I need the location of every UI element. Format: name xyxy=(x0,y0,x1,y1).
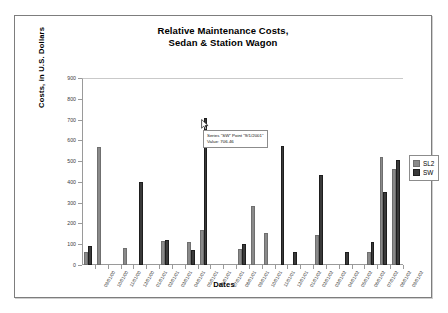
x-tick xyxy=(95,265,96,269)
bar-sw[interactable] xyxy=(139,182,143,265)
legend-item-sl2: SL2 xyxy=(413,159,434,168)
y-tick xyxy=(78,203,82,204)
bar-sw[interactable] xyxy=(191,250,195,265)
y-tick-label: 0 xyxy=(73,262,76,268)
legend-swatch-sw-icon xyxy=(413,169,420,176)
bar-sw[interactable] xyxy=(165,240,169,265)
plot-frame xyxy=(82,78,403,265)
legend-item-sw: SW xyxy=(413,168,434,177)
x-tick xyxy=(236,265,237,269)
bar-sw[interactable] xyxy=(371,242,375,265)
bar-sw[interactable] xyxy=(88,246,92,265)
x-tick xyxy=(198,265,199,269)
tooltip-value-line: Value: 706.46 xyxy=(207,139,264,145)
x-tick xyxy=(403,265,404,269)
x-tick xyxy=(121,265,122,269)
bar-sw[interactable] xyxy=(242,244,246,265)
chart-sheet: Relative Maintenance Costs, Sedan & Stat… xyxy=(14,15,432,298)
y-tick-label: 800 xyxy=(67,96,76,102)
y-tick xyxy=(78,244,82,245)
x-tick xyxy=(364,265,365,269)
x-tick xyxy=(262,265,263,269)
x-tick xyxy=(275,265,276,269)
x-tick xyxy=(326,265,327,269)
bar-sl2[interactable] xyxy=(251,206,255,265)
x-tick xyxy=(210,265,211,269)
bar-sw[interactable] xyxy=(396,160,400,265)
x-tick xyxy=(339,265,340,269)
y-tick xyxy=(78,223,82,224)
y-tick-label: 100 xyxy=(67,241,76,247)
y-tick-label: 500 xyxy=(67,158,76,164)
bar-sw[interactable] xyxy=(319,175,323,265)
y-tick-label: 300 xyxy=(67,200,76,206)
bar-sl2[interactable] xyxy=(123,248,127,265)
x-tick xyxy=(287,265,288,269)
y-tick xyxy=(78,78,82,79)
y-tick xyxy=(78,265,82,266)
y-tick-label: 400 xyxy=(67,179,76,185)
y-tick xyxy=(78,120,82,121)
legend-swatch-sl2-icon xyxy=(413,160,420,167)
tooltip-series-line: Series "SW" Point "9/1/2001" xyxy=(207,133,264,139)
y-tick-label: 200 xyxy=(67,220,76,226)
y-tick xyxy=(78,140,82,141)
chart-title-line-2: Sedan & Station Wagon xyxy=(15,37,431,49)
bar-sl2[interactable] xyxy=(264,233,268,265)
bar-sw[interactable] xyxy=(383,192,387,265)
chart-legend: SL2 SW xyxy=(409,155,439,181)
x-tick xyxy=(146,265,147,269)
y-axis-title: Costs, in U.S. Dollars xyxy=(37,27,46,108)
y-tick-label: 600 xyxy=(67,137,76,143)
x-tick xyxy=(185,265,186,269)
data-point-tooltip: Series "SW" Point "9/1/2001" Value: 706.… xyxy=(203,130,268,148)
mouse-pointer-icon xyxy=(201,119,210,130)
y-tick xyxy=(78,182,82,183)
legend-label-sl2: SL2 xyxy=(423,160,434,167)
x-tick xyxy=(159,265,160,269)
bar-sw[interactable] xyxy=(345,252,349,266)
chart-title: Relative Maintenance Costs, Sedan & Stat… xyxy=(15,25,431,48)
bar-sw[interactable] xyxy=(281,146,285,265)
x-tick xyxy=(223,265,224,269)
legend-label-sw: SW xyxy=(423,169,433,176)
x-tick xyxy=(133,265,134,269)
x-tick xyxy=(313,265,314,269)
x-tick xyxy=(390,265,391,269)
y-tick xyxy=(78,161,82,162)
y-tick xyxy=(78,99,82,100)
x-tick xyxy=(300,265,301,269)
x-tick xyxy=(172,265,173,269)
bar-sl2[interactable] xyxy=(97,147,101,265)
plot-area: 0100200300400500600700800900 09/01/0010/… xyxy=(82,78,403,265)
x-tick xyxy=(352,265,353,269)
x-tick xyxy=(108,265,109,269)
x-tick xyxy=(377,265,378,269)
y-tick-label: 900 xyxy=(67,75,76,81)
chart-title-line-1: Relative Maintenance Costs, xyxy=(15,25,431,37)
chart-page: Relative Maintenance Costs, Sedan & Stat… xyxy=(0,0,448,313)
y-tick-label: 700 xyxy=(67,117,76,123)
bar-sw[interactable] xyxy=(293,252,297,265)
x-tick xyxy=(249,265,250,269)
